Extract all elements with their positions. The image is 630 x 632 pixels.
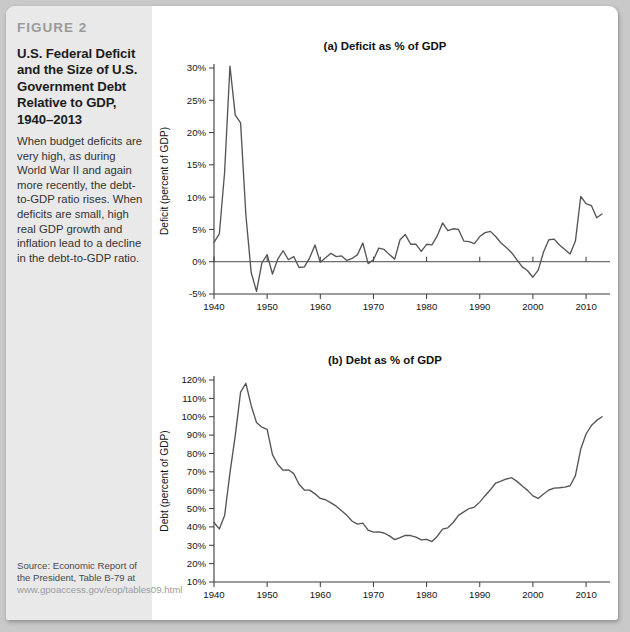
y-tick-label: 90% (187, 429, 207, 440)
y-tick-label: 100% (181, 411, 206, 422)
y-tick-label: 20% (187, 127, 207, 138)
y-tick-label: 110% (182, 393, 206, 404)
figure-title: U.S. Federal Deficit and the Size of U.S… (17, 46, 147, 128)
x-tick-label: 1940 (203, 589, 224, 600)
x-tick-label: 1970 (363, 301, 384, 312)
y-tick-label: -5% (189, 288, 207, 299)
x-tick-label: 1990 (469, 589, 490, 600)
data-series-line (214, 66, 602, 291)
y-tick-label: 5% (192, 224, 206, 235)
x-tick-label: 2000 (522, 589, 543, 600)
x-tick-label: 1950 (256, 301, 277, 312)
y-tick-label: 20% (187, 558, 207, 569)
chart-b-plot: 10%20%30%40%50%60%70%80%90%100%110%120%1… (152, 370, 618, 616)
x-tick-label: 1980 (416, 589, 437, 600)
y-axis-label: Deficit (percent of GDP) (159, 127, 170, 235)
y-tick-label: 25% (187, 95, 207, 106)
chart-panel-deficit: (a) Deficit as % of GDP -5%0%5%10%15%20%… (152, 6, 618, 324)
y-axis-label: Debt (percent of GDP) (159, 430, 170, 531)
x-tick-label: 1990 (469, 301, 490, 312)
source-prefix-text: Source: Economic Report of the President… (17, 560, 137, 583)
y-tick-label: 120% (181, 374, 206, 385)
data-series-line (214, 383, 602, 541)
y-tick-label: 10% (187, 576, 207, 587)
x-tick-label: 1970 (363, 589, 384, 600)
y-tick-label: 30% (187, 540, 207, 551)
figure-source-note: Source: Economic Report of the President… (17, 560, 145, 597)
chart-panel-debt: (b) Debt as % of GDP 10%20%30%40%50%60%7… (152, 324, 618, 620)
x-tick-label: 1950 (256, 589, 277, 600)
y-tick-label: 70% (187, 466, 207, 477)
x-tick-label: 2010 (575, 589, 596, 600)
x-tick-label: 2000 (522, 301, 543, 312)
y-tick-label: 0% (192, 256, 206, 267)
x-tick-label: 1960 (310, 301, 331, 312)
chart-a-plot: -5%0%5%10%15%20%25%30%194019501960197019… (152, 56, 618, 324)
figure-description: When budget deficits are very high, as d… (17, 134, 145, 265)
y-tick-label: 30% (187, 62, 207, 73)
y-tick-label: 40% (187, 521, 207, 532)
x-tick-label: 2010 (575, 301, 596, 312)
x-tick-label: 1940 (203, 301, 224, 312)
figure-number-label: FIGURE 2 (17, 20, 87, 35)
chart-a-title: (a) Deficit as % of GDP (152, 40, 618, 52)
x-tick-label: 1960 (310, 589, 331, 600)
y-tick-label: 10% (187, 192, 207, 203)
chart-b-title: (b) Debt as % of GDP (152, 354, 618, 366)
figure-sidebar: FIGURE 2 U.S. Federal Deficit and the Si… (6, 6, 152, 620)
x-tick-label: 1980 (416, 301, 437, 312)
figure-card: FIGURE 2 U.S. Federal Deficit and the Si… (6, 6, 618, 620)
y-tick-label: 80% (187, 448, 207, 459)
y-tick-label: 60% (187, 485, 207, 496)
y-tick-label: 50% (187, 503, 207, 514)
y-tick-label: 15% (187, 159, 207, 170)
